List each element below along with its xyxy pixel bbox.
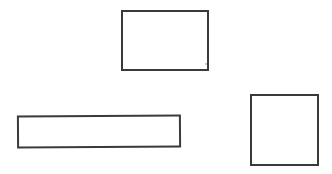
speck-mark — [205, 63, 207, 65]
rectangle-wide — [17, 114, 181, 148]
rectangle-square — [250, 94, 319, 166]
rectangle-top — [121, 10, 209, 71]
diagram-canvas — [0, 0, 332, 174]
